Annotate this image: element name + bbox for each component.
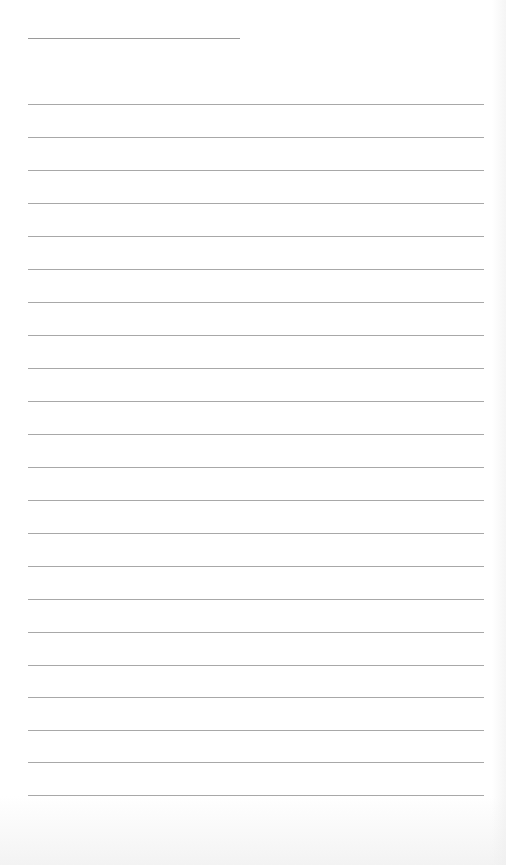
header-title-rule [28,38,240,39]
writing-rule-line [28,434,484,435]
writing-rule-line [28,533,484,534]
writing-rule-line [28,599,484,600]
writing-rule-line [28,203,484,204]
writing-rule-line [28,269,484,270]
writing-rule-line [28,137,484,138]
writing-rule-line [28,401,484,402]
writing-rule-line [28,632,484,633]
writing-rule-line [28,368,484,369]
writing-rule-line [28,104,484,105]
writing-rule-line [28,665,484,666]
writing-rule-line [28,730,484,731]
writing-rule-line [28,302,484,303]
writing-rule-line [28,762,484,763]
writing-rule-line [28,236,484,237]
writing-rule-line [28,795,484,796]
page-edge-shadow [492,0,506,865]
writing-rule-line [28,697,484,698]
writing-rule-line [28,335,484,336]
writing-rule-line [28,566,484,567]
writing-rule-line [28,500,484,501]
lined-paper-page [0,0,506,865]
writing-rule-line [28,467,484,468]
writing-rule-line [28,170,484,171]
